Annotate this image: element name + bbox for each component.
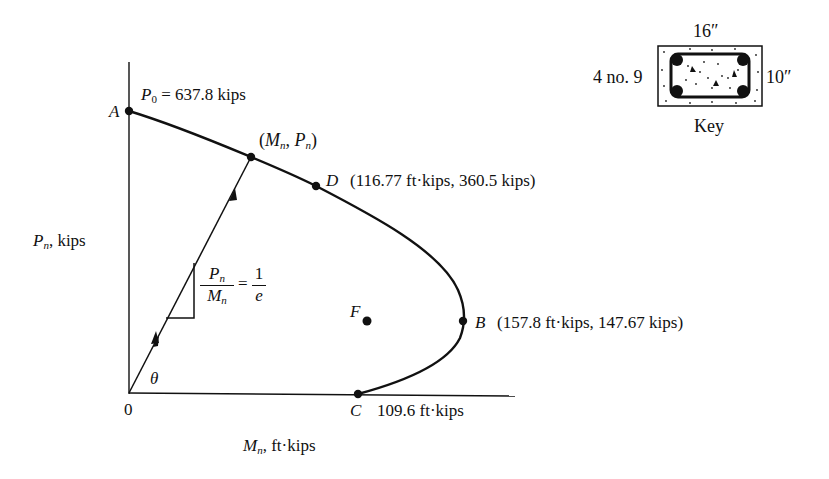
key-width-label: 16″ (693, 22, 719, 40)
pn-num-subscript: n (219, 272, 225, 284)
fraction-denominator: Mn (200, 287, 234, 306)
point-a-label: A (109, 103, 119, 120)
x-axis (129, 393, 515, 396)
interaction-curve (129, 111, 464, 394)
mn-symbol: M (265, 130, 280, 150)
slope-triangle (166, 263, 194, 318)
mn-pn-annotation: (Mn, Pn) (259, 131, 317, 151)
x-axis-label: Mn, ft·kips (243, 437, 316, 456)
y-axis-label: Pn, kips (33, 232, 86, 251)
x-axis-symbol: M (243, 436, 257, 455)
y-axis-unit: , kips (49, 231, 86, 250)
x-axis-unit: , ft·kips (263, 436, 316, 455)
pn-num-symbol: P (209, 264, 219, 283)
key-height-label: 10″ (766, 68, 792, 86)
rhs-denominator: e (252, 287, 266, 306)
mn-den-subscript: n (221, 294, 227, 306)
point-b-label: B (475, 314, 485, 331)
point-a-marker (125, 107, 133, 115)
cross-section-key (658, 46, 762, 106)
fraction-numerator: Pn (200, 265, 234, 284)
point-d-marker (312, 182, 320, 190)
p0-value: = 637.8 kips (157, 85, 246, 104)
key-caption: Key (694, 117, 724, 135)
slope-fraction-rhs: 1 e (252, 265, 266, 305)
point-d-coords: (116.77 ft·kips, 360.5 kips) (350, 172, 535, 189)
p0-symbol: P (141, 85, 151, 104)
point-f-label: F (350, 303, 360, 320)
origin-label: 0 (124, 401, 133, 418)
fraction-equals: = (238, 275, 248, 292)
arrow-icon (229, 188, 237, 201)
y-axis-symbol: P (33, 231, 43, 250)
slope-fraction-lhs: Pn Mn (200, 265, 234, 306)
p0-annotation: P0 = 637.8 kips (141, 86, 246, 105)
mn-den-symbol: M (207, 286, 221, 305)
point-b-marker (459, 317, 467, 325)
point-c-label: C (350, 402, 361, 419)
point-mn-pn-marker (247, 153, 255, 161)
paren-close: ) (311, 130, 317, 150)
point-b-coords: (157.8 ft·kips, 147.67 kips) (497, 314, 683, 331)
key-bars-label: 4 no. 9 (593, 68, 643, 86)
rhs-numerator: 1 (252, 265, 266, 284)
point-c-value: 109.6 ft·kips (377, 402, 464, 419)
point-f-marker (363, 317, 372, 326)
point-d-label: D (326, 172, 338, 189)
separator: , (286, 130, 295, 150)
theta-label: θ (150, 370, 158, 387)
point-c-marker (354, 390, 362, 398)
pn-symbol: P (295, 130, 306, 150)
